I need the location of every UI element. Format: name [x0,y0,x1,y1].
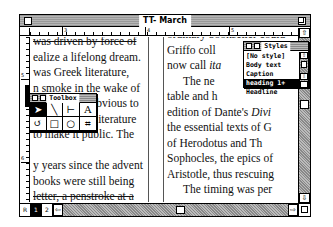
ruler-origin[interactable] [20,28,30,36]
pointer-tool-icon[interactable]: ➤ [30,103,47,117]
perpendicular-line-tool-icon[interactable]: ⊢ [63,103,80,117]
scroll-down-arrow-icon[interactable]: ⇩ [300,73,308,80]
toolbox-title: Toolbox [46,94,79,103]
styles-list: [No style]Body textCaptionheading 1+Head… [244,52,300,97]
italic-run: Divi [251,106,271,118]
style-list-item[interactable]: Headline [244,88,300,97]
ruler-major-tick [21,162,29,163]
text-line: books were still being [33,174,148,190]
italic-run: ita [209,59,221,71]
style-list-item[interactable]: [No style] [244,52,300,61]
ruler-label: 4 [147,27,150,33]
close-box[interactable] [246,43,252,49]
column-gutter [150,37,164,202]
horizontal-scroll-thumb[interactable] [176,206,185,214]
rectangle-tool-icon[interactable]: □ [47,117,64,131]
text-line: was Greek literature, [33,65,148,81]
toolbox-title-bar[interactable]: Toolbox [30,94,96,103]
horizontal-ruler[interactable]: 3 4 5 [20,28,310,36]
ruler-label: 3 [64,27,67,33]
text-line [33,143,148,159]
ruler-label: 5 [21,72,24,78]
crop-tool-icon[interactable]: ⌗ [80,117,97,131]
text-line: was driven by force of [33,37,148,50]
styles-title-bar[interactable]: Styles [244,42,308,51]
tool-grid: ➤╲⊢A↺□○⌗ [30,103,96,131]
palette-grow-box[interactable] [300,81,308,88]
close-box[interactable] [24,17,32,25]
ruler-label: 6 [21,155,24,161]
styles-palette: Styles [No style]Body textCaptionheading… [243,41,309,88]
diagonal-line-tool-icon[interactable]: ╲ [47,103,64,117]
resize-grow-box[interactable] [298,203,310,216]
text-line: ealize a lifelong dream. [33,50,148,66]
toolbox-palette: Toolbox ➤╲⊢A↺□○⌗ [29,93,97,132]
scroll-up-arrow-icon[interactable]: ⇧ [299,28,310,38]
zoom-box[interactable] [254,43,260,49]
page-button-2[interactable]: 2 [42,204,53,216]
zoom-box[interactable] [40,95,46,101]
ruler-major-tick [229,27,230,35]
text-line: Aristotle, thus rescuing [167,167,297,183]
title-bar[interactable]: TT- March [20,15,310,27]
scroll-up-arrow-icon[interactable]: ⇧ [300,52,308,59]
scroll-left-arrow-icon[interactable]: ⇦ [53,204,63,216]
text-line: edition of Dante's Divi [167,105,297,121]
close-box[interactable] [32,95,38,101]
scroll-right-arrow-icon[interactable]: ⇨ [288,204,298,216]
style-list-item[interactable]: heading 1+ [244,79,300,88]
rotate-tool-icon[interactable]: ↺ [30,117,47,131]
styles-scroll-thumb[interactable] [301,61,307,68]
styles-title: Styles [261,42,290,51]
text-run: edition of Dante's [167,106,251,118]
text-line: the essential texts of G [167,120,297,136]
text-line: y years since the advent [33,158,148,174]
horizontal-scrollbar[interactable]: R 1 2 ⇦ ⇨ [20,203,310,216]
text-tool-icon[interactable]: A [80,103,97,117]
ruler-major-tick [145,27,146,35]
page-button-1[interactable]: 1 [31,204,42,216]
style-list-item[interactable]: Caption [244,70,300,79]
ruler-major-tick [21,79,29,80]
style-list-item[interactable]: Body text [244,61,300,70]
text-line: letter, a penstroke at a [33,189,148,202]
text-line: of Herodotus and Th [167,136,297,152]
styles-scrollbar[interactable]: ⇧ ⇩ [299,52,308,88]
scroll-down-arrow-icon[interactable]: ⇩ [299,193,310,203]
ruler-ticks [30,32,298,35]
master-page-button[interactable]: R [20,204,31,216]
ruler-major-tick [62,27,63,35]
text-line: Sophocles, the epics of [167,151,297,167]
window-title: TT- March [139,15,191,27]
vertical-scroll-thumb[interactable] [300,100,309,109]
text-line: The timing was per [167,182,297,198]
text-run: now call [167,59,209,71]
ellipse-tool-icon[interactable]: ○ [63,117,80,131]
ruler-label: 5 [231,27,234,33]
zoom-box[interactable] [298,17,306,25]
